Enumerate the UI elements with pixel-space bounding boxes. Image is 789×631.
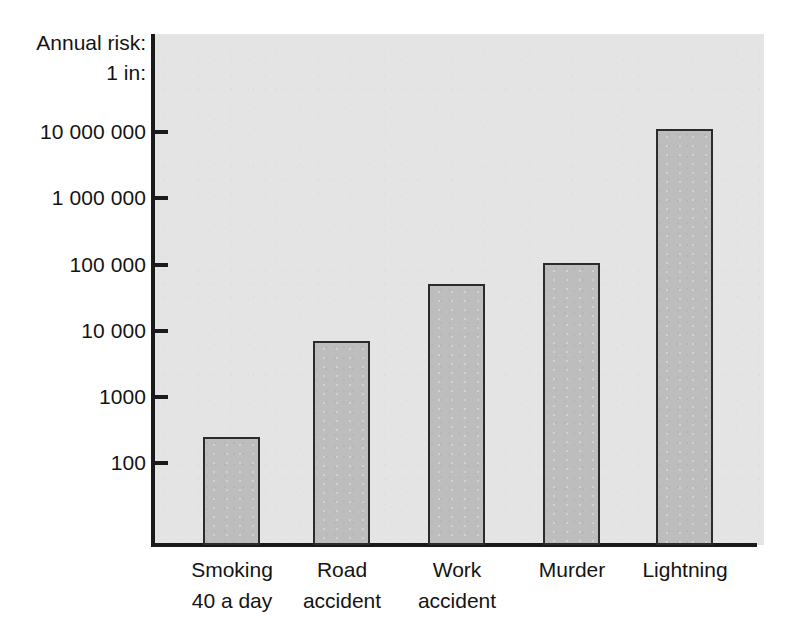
bar-smoking-40-a-day[interactable] xyxy=(203,437,260,545)
x-label-line-1: Smoking xyxy=(172,554,292,585)
y-tick-mark xyxy=(155,263,168,267)
y-tick-mark xyxy=(155,130,168,134)
x-label-work-accident: Work accident xyxy=(397,554,517,616)
x-label-smoking-40-a-day: Smoking 40 a day xyxy=(172,554,292,616)
bar-work-accident[interactable] xyxy=(428,284,485,545)
x-label-line-1: Road xyxy=(282,554,402,585)
y-tick-mark xyxy=(155,395,168,399)
y-tick-label: 1000 xyxy=(6,385,146,409)
x-label-line-1: Lightning xyxy=(623,554,747,585)
y-tick-label: 10 000 xyxy=(6,319,146,343)
bar-murder[interactable] xyxy=(543,263,600,545)
y-axis-tick-labels: 10 000 000 1 000 000 100 000 10 000 1000… xyxy=(0,0,146,631)
y-tick-label: 10 000 000 xyxy=(6,120,146,144)
y-tick-label: 100 000 xyxy=(6,253,146,277)
bar-lightning[interactable] xyxy=(656,129,713,545)
y-tick-mark xyxy=(155,329,168,333)
x-label-murder: Murder xyxy=(512,554,632,585)
risk-bar-chart: Annual risk: 1 in: 10 000 000 1 000 000 … xyxy=(0,0,789,631)
x-label-line-2: accident xyxy=(282,585,402,616)
x-label-line-1: Murder xyxy=(512,554,632,585)
y-tick-mark xyxy=(155,196,168,200)
bar-road-accident[interactable] xyxy=(313,341,370,545)
y-tick-label: 100 xyxy=(6,451,146,475)
y-tick-label: 1 000 000 xyxy=(6,186,146,210)
x-label-road-accident: Road accident xyxy=(282,554,402,616)
y-axis-line xyxy=(151,34,155,547)
y-tick-mark xyxy=(155,461,168,465)
x-label-line-2: accident xyxy=(397,585,517,616)
x-label-lightning: Lightning xyxy=(623,554,747,585)
x-label-line-2: 40 a day xyxy=(172,585,292,616)
x-label-line-1: Work xyxy=(397,554,517,585)
